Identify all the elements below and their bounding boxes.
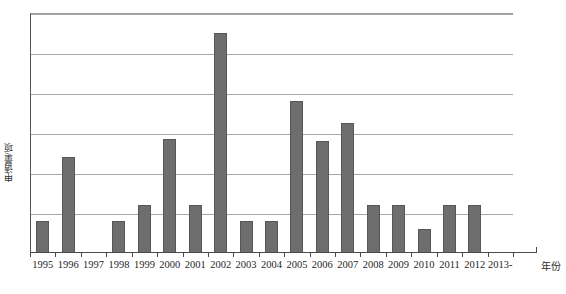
- bar-chart: 申请量/项 1995199619971998199920002001200220…: [0, 0, 566, 294]
- bar-2004: [265, 221, 278, 253]
- x-axis-ticks: [30, 253, 513, 258]
- bar-2010: [418, 229, 431, 253]
- x-tick: [259, 253, 260, 257]
- x-tick: [488, 253, 489, 257]
- x-tick: [411, 253, 412, 257]
- bar-2011: [443, 205, 456, 253]
- x-tick: [513, 253, 514, 257]
- bar-2006: [316, 141, 329, 253]
- bar-2000: [163, 139, 176, 253]
- x-axis-endcap: [536, 247, 537, 253]
- bar-1999: [138, 205, 151, 253]
- bar-2001: [189, 205, 202, 253]
- bar-1996: [62, 157, 75, 253]
- x-tick: [81, 253, 82, 257]
- x-tick: [208, 253, 209, 257]
- x-axis-label: 2013-: [480, 259, 520, 270]
- x-tick: [30, 253, 31, 257]
- x-tick: [310, 253, 311, 257]
- x-axis-labels: 1995199619971998199920002001200220032004…: [0, 259, 566, 277]
- x-tick: [386, 253, 387, 257]
- x-axis-title: 年份: [541, 258, 561, 273]
- bar-2003: [240, 221, 253, 253]
- x-tick: [437, 253, 438, 257]
- x-tick: [335, 253, 336, 257]
- x-tick: [462, 253, 463, 257]
- bar-2008: [367, 205, 380, 253]
- x-tick: [183, 253, 184, 257]
- x-tick: [106, 253, 107, 257]
- bars-layer: [30, 13, 513, 253]
- bar-2009: [392, 205, 405, 253]
- x-axis-extension: [513, 252, 537, 253]
- bar-1998: [112, 221, 125, 253]
- x-tick: [132, 253, 133, 257]
- x-tick: [233, 253, 234, 257]
- bar-2005: [290, 101, 303, 253]
- bar-2012: [468, 205, 481, 253]
- x-tick: [284, 253, 285, 257]
- x-tick: [55, 253, 56, 257]
- bar-2007: [341, 123, 354, 253]
- y-axis-title: 申请量/项: [0, 118, 16, 208]
- x-tick: [157, 253, 158, 257]
- x-tick: [360, 253, 361, 257]
- bar-2002: [214, 33, 227, 253]
- bar-1995: [36, 221, 49, 253]
